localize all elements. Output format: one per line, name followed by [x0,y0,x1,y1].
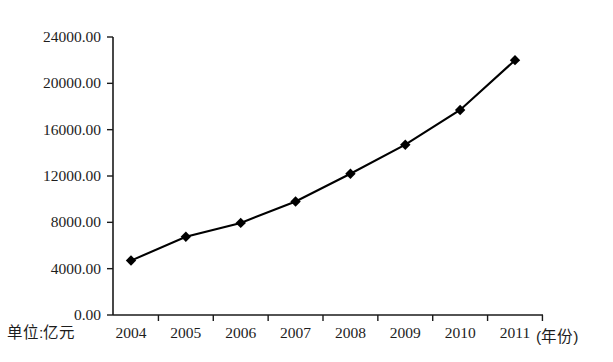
y-axis-tick-label: 20000.00 [0,74,101,92]
data-point-marker [236,218,246,228]
x-axis-tick-label: 2011 [500,324,530,342]
data-point-marker [290,196,300,206]
x-axis-ticks [158,315,542,321]
series-markers [126,55,520,266]
x-axis-tick-label: 2008 [335,324,366,342]
y-axis-tick-label: 4000.00 [0,260,101,278]
y-axis-tick-label: 12000.00 [0,167,101,185]
y-axis-tick-label: 16000.00 [0,121,101,139]
x-axis-label: (年份) [536,324,578,346]
x-axis-tick-label: 2007 [280,324,311,342]
y-axis-tick-label: 8000.00 [0,213,101,231]
x-axis-tick-label: 2006 [225,324,256,342]
x-axis-tick-label: 2005 [170,324,201,342]
unit-caption: 单位:亿元 [7,320,75,342]
data-point-marker [126,255,136,265]
x-axis-tick-label: 2009 [390,324,421,342]
y-axis-ticks [107,37,113,315]
data-point-marker [181,232,191,242]
y-axis-tick-label: 24000.00 [0,28,101,46]
series-line [131,60,515,260]
data-point-marker [345,168,355,178]
x-axis-tick-label: 2004 [116,324,147,342]
line-chart: 0.004000.008000.0012000.0016000.0020000.… [0,0,613,362]
x-axis-tick-label: 2010 [445,324,476,342]
data-point-marker [400,140,410,150]
axis-lines [113,37,543,315]
